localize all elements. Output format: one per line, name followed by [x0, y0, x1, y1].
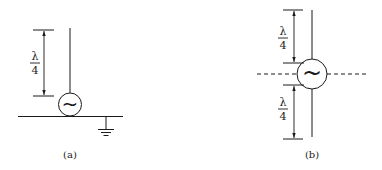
ground-icon — [98, 117, 114, 136]
upper-lambda-denominator: 4 — [280, 39, 287, 52]
panel-a: λ 4 ~ (a) — [18, 28, 123, 160]
panel-b: ~ λ 4 λ 4 (b) — [257, 10, 368, 160]
lower-lambda-numerator: λ — [280, 96, 287, 109]
caption-a: (a) — [63, 149, 77, 160]
tilde-symbol: ~ — [302, 59, 322, 87]
arrowhead-down-icon — [292, 133, 295, 138]
arrowhead-down-icon — [292, 57, 295, 62]
lambda-denominator: 4 — [32, 64, 39, 77]
lower-lambda-denominator: 4 — [280, 110, 287, 123]
tilde-symbol: ~ — [62, 92, 79, 116]
caption-b: (b) — [305, 149, 319, 160]
lambda-numerator: λ — [32, 50, 39, 63]
arrowhead-up-icon — [42, 31, 45, 36]
upper-lambda-numerator: λ — [280, 25, 287, 38]
antenna-diagram: λ 4 ~ (a) ~ λ — [0, 0, 382, 170]
arrowhead-up-icon — [292, 11, 295, 16]
arrowhead-up-icon — [292, 86, 295, 91]
arrowhead-down-icon — [42, 90, 45, 95]
